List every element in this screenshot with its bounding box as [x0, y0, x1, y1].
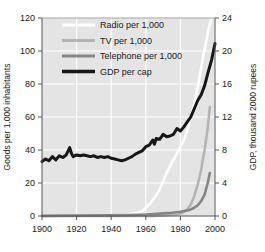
ytick-label-left: 60	[25, 112, 35, 122]
xtick-label: 1900	[32, 224, 52, 234]
xtick-label: 2000	[205, 224, 225, 234]
ytick-label-left: 80	[25, 79, 35, 89]
ytick-label-left: 100	[20, 46, 35, 56]
ytick-label-left: 0	[30, 211, 35, 221]
xtick-label: 1980	[170, 224, 190, 234]
ytick-label-right: 24	[222, 13, 232, 23]
xtick-label: 1920	[67, 224, 87, 234]
ytick-label-left: 40	[25, 145, 35, 155]
xtick-label: 1940	[101, 224, 121, 234]
legend-label-2: TV per 1,000	[100, 36, 152, 46]
ytick-label-right: 4	[222, 178, 227, 188]
legend-label-1: Radio per 1,000	[100, 20, 164, 30]
y-axis-title-left: Goods per 1,000 inhabitants	[2, 64, 12, 171]
legend-label-4: GDP per cap	[100, 67, 152, 77]
xtick-label: 1960	[136, 224, 156, 234]
ytick-label-left: 20	[25, 178, 35, 188]
chart-svg: 0204060801001200481216202419001920194019…	[0, 0, 265, 252]
chart-figure: 0204060801001200481216202419001920194019…	[0, 0, 265, 252]
ytick-label-right: 20	[222, 46, 232, 56]
ytick-label-right: 16	[222, 79, 232, 89]
y-axis-title-right: GDP, thousand 2000 rupees	[248, 64, 258, 171]
ytick-label-right: 8	[222, 145, 227, 155]
ytick-label-right: 12	[222, 112, 232, 122]
ytick-label-right: 0	[222, 211, 227, 221]
legend-label-3: Telephone per 1,000	[100, 51, 182, 61]
ytick-label-left: 120	[20, 13, 35, 23]
